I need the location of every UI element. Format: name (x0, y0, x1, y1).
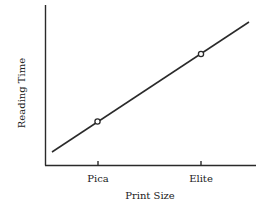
data-point-elite (198, 51, 203, 56)
y-axis-label: Reading Time (16, 58, 27, 128)
x-axis-label: Print Size (125, 190, 175, 201)
x-tick-label-elite: Elite (189, 173, 213, 184)
trend-line (52, 22, 249, 152)
data-point-pica (95, 119, 100, 124)
line-chart: Pica Elite Print Size Reading Time (0, 0, 271, 207)
x-tick-label-pica: Pica (87, 173, 109, 184)
